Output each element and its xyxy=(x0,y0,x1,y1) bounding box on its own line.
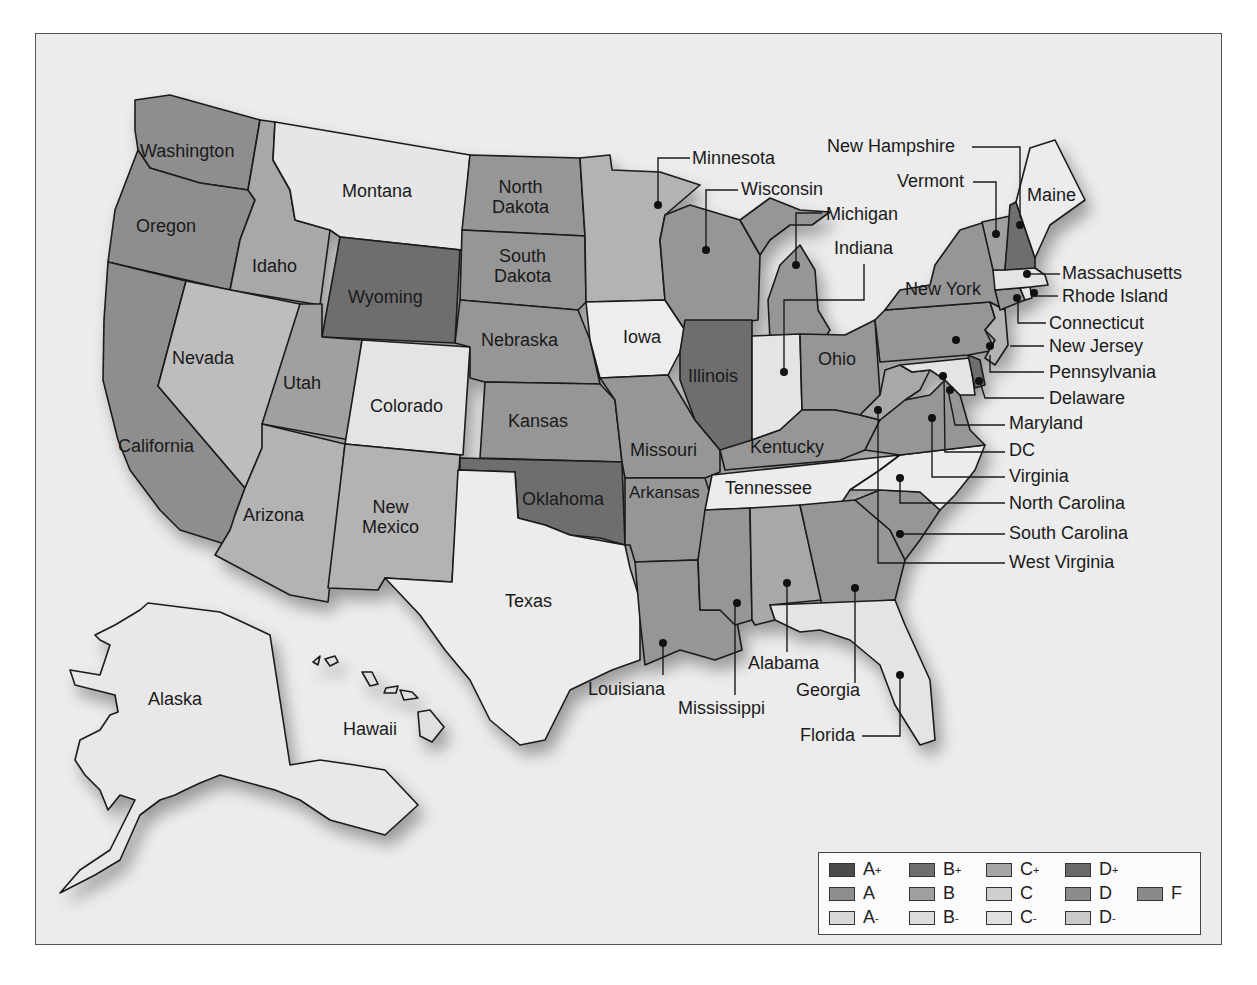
label-oregon: Oregon xyxy=(136,217,196,237)
state-hawaii-6 xyxy=(418,710,444,742)
label-south-dakota-line1: South xyxy=(499,246,546,266)
legend-item-d: D xyxy=(1065,883,1112,904)
legend-item-d-plus: D+ xyxy=(1065,859,1118,880)
label-louisiana: Louisiana xyxy=(588,680,665,700)
legend-label: D xyxy=(1099,883,1112,904)
state-massachusetts xyxy=(993,268,1048,290)
legend-swatch xyxy=(986,887,1012,901)
legend-label: C xyxy=(1020,907,1033,928)
label-south-dakota-line2: Dakota xyxy=(494,266,551,286)
legend-swatch xyxy=(1065,863,1091,877)
legend-item-f: F xyxy=(1137,883,1182,904)
legend-swatch xyxy=(1137,887,1163,901)
label-north-dakota-line2: Dakota xyxy=(492,197,549,217)
label-utah: Utah xyxy=(283,374,321,394)
legend-swatch xyxy=(909,863,935,877)
label-south-dakota: SouthDakota xyxy=(494,247,551,287)
legend-item-b-plus: B+ xyxy=(909,859,961,880)
legend-item-b-minus: B- xyxy=(909,907,959,928)
state-hawaii-4 xyxy=(384,686,398,693)
legend-swatch xyxy=(986,911,1012,925)
legend-swatch xyxy=(909,887,935,901)
legend-item-a-minus: A- xyxy=(829,907,879,928)
legend-item-c-minus: C- xyxy=(986,907,1037,928)
label-kentucky: Kentucky xyxy=(750,438,824,458)
label-rhode-island: Rhode Island xyxy=(1062,287,1168,307)
label-virginia: Virginia xyxy=(1009,467,1069,487)
legend-label: D xyxy=(1099,859,1112,880)
legend-label: C xyxy=(1020,883,1033,904)
label-maryland: Maryland xyxy=(1009,414,1083,434)
label-georgia: Georgia xyxy=(796,681,860,701)
legend-item-b: B xyxy=(909,883,955,904)
legend-swatch xyxy=(1065,911,1091,925)
label-montana: Montana xyxy=(342,182,412,202)
label-texas: Texas xyxy=(505,592,552,612)
state-hawaii-5 xyxy=(400,690,418,700)
legend-item-d-minus: D- xyxy=(1065,907,1116,928)
label-wyoming: Wyoming xyxy=(348,288,423,308)
label-maine: Maine xyxy=(1027,186,1076,206)
state-alaska xyxy=(60,603,418,893)
legend-label: A xyxy=(863,907,875,928)
label-pennsylvania: Pennsylvania xyxy=(1049,363,1156,383)
label-iowa: Iowa xyxy=(623,328,661,348)
label-connecticut: Connecticut xyxy=(1049,314,1144,334)
legend-item-a-plus: A+ xyxy=(829,859,881,880)
legend-swatch xyxy=(986,863,1012,877)
legend-item-c: C xyxy=(986,883,1033,904)
label-north-carolina: North Carolina xyxy=(1009,494,1125,514)
label-arizona: Arizona xyxy=(243,506,304,526)
legend-swatch xyxy=(829,887,855,901)
grade-legend: A+ B+ C+ D+ A B C D F A- B- C- D- xyxy=(818,852,1201,935)
legend-label: B xyxy=(943,883,955,904)
label-oklahoma: Oklahoma xyxy=(522,490,604,510)
label-kansas: Kansas xyxy=(508,412,568,432)
state-hawaii-3 xyxy=(362,672,378,686)
label-new-mexico-line2: Mexico xyxy=(362,517,419,537)
label-new-mexico-line1: New xyxy=(373,497,409,517)
legend-label: B xyxy=(943,859,955,880)
label-colorado: Colorado xyxy=(370,397,443,417)
legend-label: A xyxy=(863,859,875,880)
legend-label: A xyxy=(863,883,875,904)
label-nevada: Nevada xyxy=(172,349,234,369)
label-vermont: Vermont xyxy=(897,172,964,192)
legend-swatch xyxy=(829,911,855,925)
legend-swatch xyxy=(829,863,855,877)
label-new-hampshire: New Hampshire xyxy=(827,137,955,157)
label-washington: Washington xyxy=(140,142,234,162)
label-new-jersey: New Jersey xyxy=(1049,337,1143,357)
label-new-york: New York xyxy=(905,280,981,300)
label-california: California xyxy=(118,437,194,457)
state-hawaii-2 xyxy=(325,656,338,666)
legend-label: D xyxy=(1099,907,1112,928)
label-new-mexico: NewMexico xyxy=(362,498,419,538)
legend-label: B xyxy=(943,907,955,928)
legend-swatch xyxy=(1065,887,1091,901)
legend-item-a: A xyxy=(829,883,875,904)
label-delaware: Delaware xyxy=(1049,389,1125,409)
label-arkansas: Arkansas xyxy=(629,484,700,503)
legend-label: F xyxy=(1171,883,1182,904)
label-michigan: Michigan xyxy=(826,205,898,225)
label-massachusetts: Massachusetts xyxy=(1062,264,1182,284)
label-north-dakota: NorthDakota xyxy=(492,178,549,218)
label-hawaii: Hawaii xyxy=(343,720,397,740)
state-hawaii-1 xyxy=(313,656,320,665)
legend-item-c-plus: C+ xyxy=(986,859,1039,880)
label-alaska: Alaska xyxy=(148,690,202,710)
label-south-carolina: South Carolina xyxy=(1009,524,1128,544)
label-wisconsin: Wisconsin xyxy=(741,180,823,200)
label-alabama: Alabama xyxy=(748,654,819,674)
label-tennessee: Tennessee xyxy=(725,479,812,499)
label-idaho: Idaho xyxy=(252,257,297,277)
label-west-virginia: West Virginia xyxy=(1009,553,1114,573)
legend-swatch xyxy=(909,911,935,925)
legend-label: C xyxy=(1020,859,1033,880)
label-nebraska: Nebraska xyxy=(481,331,558,351)
state-pennsylvania xyxy=(875,302,995,362)
state-mississippi xyxy=(698,508,752,625)
label-florida: Florida xyxy=(800,726,855,746)
label-dc: DC xyxy=(1009,441,1035,461)
